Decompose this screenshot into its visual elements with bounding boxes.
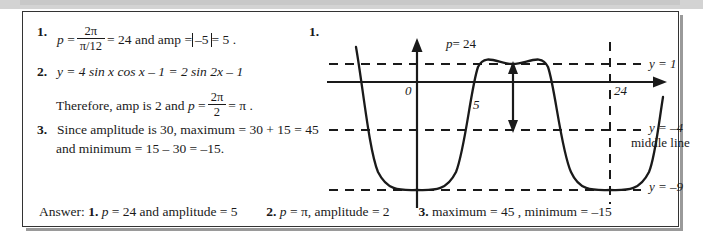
- answer-lead: Answer:: [39, 204, 85, 219]
- step-2-equals: =: [198, 98, 206, 113]
- step-2-therefore-text: Therefore, amp is 2 and: [56, 98, 185, 113]
- step-2-variable-p: p: [188, 98, 195, 113]
- label-y-equals-minus-9: y = –9: [649, 179, 683, 195]
- step-3-line1: Since amplitude is 30, maximum = 30 + 15…: [57, 122, 319, 139]
- step-1-equals-24: = 24: [107, 32, 132, 47]
- step-2-equation: y = 4 sin x cos x – 1 = 2 sin 2x – 1: [57, 64, 243, 81]
- step-1-absolute-value: –5: [192, 33, 212, 48]
- period-label: p= 24: [446, 36, 476, 52]
- label-amplitude-5: 5: [473, 97, 480, 113]
- step-2-fraction: 2π2: [208, 90, 227, 120]
- sheet-shadow-bottom: [26, 228, 683, 231]
- step-1-amp-label: amp: [158, 32, 181, 47]
- scanner-top-bar-inner: [20, 0, 680, 5]
- solution-step-3-line2: and minimum = 15 – 30 = –15.: [56, 141, 224, 158]
- step-1-equals-5: = 5 .: [212, 32, 237, 47]
- answer-item-2-number: 2.: [266, 204, 276, 219]
- solution-step-1: 1. p =2ππ/12= 24 and amp =–5= 5 .: [37, 24, 236, 54]
- solution-step-2-line2: Therefore, amp is 2 and p =2π2= π .: [56, 90, 253, 120]
- label-origin-zero: 0: [405, 83, 412, 99]
- label-middle-line: middle line: [631, 135, 690, 151]
- step-2-fraction-denominator: 2: [208, 105, 227, 120]
- step-1-fraction-numerator: 2π: [77, 24, 105, 39]
- step-1-fraction-denominator: π/12: [77, 39, 105, 54]
- answer-item-1-number: 1.: [88, 204, 98, 219]
- amplitude-arrowhead-down: [508, 120, 518, 133]
- solution-step-3: 3. Since amplitude is 30, maximum = 30 +…: [37, 122, 319, 139]
- step-1-variable-p: p: [57, 32, 64, 47]
- x-axis-arrowhead: [653, 77, 667, 88]
- label-y-equals-minus-4: y = –4: [649, 120, 683, 136]
- y-axis-arrowhead: [412, 38, 423, 52]
- step-3-number: 3.: [37, 122, 55, 139]
- scanner-top-bar: [0, 0, 703, 9]
- period-label-value: = 24: [453, 36, 477, 51]
- solution-sheet: 1. p =2ππ/12= 24 and amp =–5= 5 . 2. y =…: [22, 11, 679, 227]
- step-2-number: 2.: [37, 64, 55, 81]
- step-1-and: and: [135, 32, 155, 47]
- step-1-equals-2: =: [184, 32, 192, 47]
- solution-step-2: 2. y = 4 sin x cos x – 1 = 2 sin 2x – 1: [37, 64, 243, 81]
- label-y-equals-1: y = 1: [649, 56, 677, 72]
- sine-curve: [356, 47, 663, 190]
- solution-steps: 1. p =2ππ/12= 24 and amp =–5= 5 . 2. y =…: [23, 12, 323, 228]
- step-2-result: = π .: [228, 98, 253, 113]
- answer-item-1-variable: p: [102, 204, 109, 219]
- step-1-fraction: 2ππ/12: [77, 24, 105, 54]
- step-1-number: 1.: [37, 24, 55, 41]
- label-x-24: 24: [614, 83, 627, 99]
- answer-item-2-variable: p: [280, 204, 287, 219]
- figure-panel: 1.: [301, 12, 680, 228]
- step-1-body: p =2ππ/12= 24 and amp =–5= 5 .: [57, 24, 236, 54]
- sinusoid-graph: [301, 12, 680, 228]
- page-root: 1. p =2ππ/12= 24 and amp =–5= 5 . 2. y =…: [0, 0, 703, 245]
- answer-item-1-text: = 24 and amplitude = 5: [112, 204, 238, 219]
- step-2-fraction-numerator: 2π: [208, 90, 227, 105]
- step-1-equals-1: =: [67, 32, 75, 47]
